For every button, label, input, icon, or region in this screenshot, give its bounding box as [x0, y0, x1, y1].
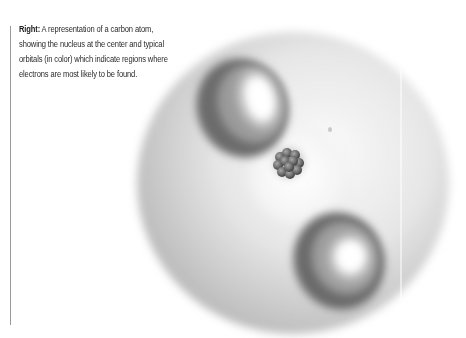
- speck-mark: [328, 127, 332, 132]
- carbon-atom-illustration: [0, 0, 466, 338]
- nucleus: [273, 148, 304, 179]
